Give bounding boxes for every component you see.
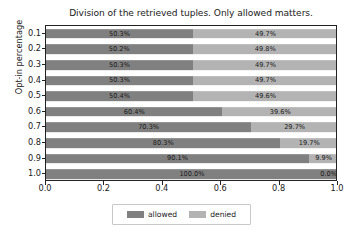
bar-value-label: 100.0% — [179, 170, 204, 178]
bar-row: 50.2%49.8% — [46, 45, 336, 55]
bar-segment-denied: 29.7% — [251, 123, 337, 133]
bar-row: 50.3%49.7% — [46, 60, 336, 70]
bar-segment-allowed: 50.4% — [46, 91, 193, 101]
legend-item-denied[interactable]: denied — [189, 210, 236, 219]
x-tick-mark — [45, 181, 46, 185]
bar-segment-allowed: 90.1% — [46, 154, 309, 164]
bar-value-label: 50.2% — [109, 45, 130, 53]
legend-item-allowed[interactable]: allowed — [127, 210, 177, 219]
bar-value-label: 60.4% — [124, 108, 145, 116]
bar-value-label: 49.7% — [255, 30, 276, 38]
y-tick-label-0.6: 0.6 — [17, 106, 41, 116]
chart-title: Division of the retrieved tuples. Only a… — [45, 8, 337, 18]
x-tick-mark — [279, 181, 280, 185]
bar-segment-denied: 49.7% — [193, 60, 337, 70]
y-tick-label-0.8: 0.8 — [17, 137, 41, 147]
bar-row: 60.4%39.6% — [46, 107, 336, 117]
x-tick-label-1.0: 1.0 — [317, 183, 357, 193]
y-tick-mark — [42, 95, 46, 96]
bar-row: 50.3%49.7% — [46, 76, 336, 86]
bar-segment-allowed: 50.3% — [46, 29, 193, 39]
bar-value-label: 49.8% — [255, 45, 276, 53]
y-tick-label-0.1: 0.1 — [17, 28, 41, 38]
bar-value-label: 90.1% — [167, 155, 188, 163]
y-tick-label-0.4: 0.4 — [17, 75, 41, 85]
y-tick-mark — [42, 173, 46, 174]
y-tick-label-0.3: 0.3 — [17, 59, 41, 69]
bar-value-label: 80.3% — [153, 139, 174, 147]
y-tick-mark — [42, 126, 46, 127]
bar-segment-denied: 49.8% — [193, 45, 337, 55]
y-tick-mark — [42, 64, 46, 65]
x-tick-label-0.8: 0.8 — [259, 183, 299, 193]
bar-value-label: 49.7% — [255, 77, 276, 85]
bar-row: 90.1%9.9% — [46, 154, 336, 164]
legend-swatch-allowed — [127, 211, 144, 218]
bar-segment-allowed: 50.3% — [46, 60, 193, 70]
bar-segment-allowed: 50.3% — [46, 76, 193, 86]
bar-segment-denied: 49.7% — [193, 76, 337, 86]
x-axis-tick-labels: 0.00.20.40.60.81.0 — [45, 183, 337, 197]
y-tick-label-0.7: 0.7 — [17, 121, 41, 131]
x-tick-mark — [220, 181, 221, 185]
bar-value-label: 49.6% — [255, 92, 276, 100]
plot-area: 50.3%49.7%50.2%49.8%50.3%49.7%50.3%49.7%… — [45, 25, 337, 181]
y-axis-tick-labels: 0.10.20.30.40.50.60.70.80.91.0 — [15, 25, 41, 181]
legend-swatch-denied — [189, 211, 206, 218]
x-tick-label-0.2: 0.2 — [83, 183, 123, 193]
bar-value-label: 9.9% — [315, 155, 332, 163]
y-tick-mark — [42, 158, 46, 159]
y-tick-mark — [42, 80, 46, 81]
bar-segment-allowed: 70.3% — [46, 123, 251, 133]
bar-segment-denied: 19.7% — [280, 138, 337, 148]
legend-label: allowed — [148, 210, 177, 219]
y-tick-mark — [42, 33, 46, 34]
y-tick-label-0.9: 0.9 — [17, 153, 41, 163]
bar-row: 70.3%29.7% — [46, 123, 336, 133]
bar-segment-allowed: 80.3% — [46, 138, 280, 148]
bar-value-label: 50.4% — [109, 92, 130, 100]
y-tick-mark — [42, 111, 46, 112]
x-tick-label-0.6: 0.6 — [200, 183, 240, 193]
bar-segment-allowed: 60.4% — [46, 107, 222, 117]
bar-value-label: 50.3% — [109, 30, 130, 38]
x-tick-label-0.0: 0.0 — [25, 183, 65, 193]
x-tick-mark — [162, 181, 163, 185]
bar-value-label: 50.3% — [109, 77, 130, 85]
bar-row: 100.0%0.0% — [46, 169, 336, 179]
chart-legend: alloweddenied — [112, 204, 251, 225]
y-tick-mark — [42, 48, 46, 49]
bar-value-label: 49.7% — [255, 61, 276, 69]
bar-segment-denied: 9.9% — [309, 154, 337, 164]
y-tick-label-1.0: 1.0 — [17, 168, 41, 178]
bar-row: 50.4%49.6% — [46, 91, 336, 101]
bar-value-label: 19.7% — [299, 139, 320, 147]
bar-segment-allowed: 50.2% — [46, 45, 193, 55]
bar-value-label: 39.6% — [270, 108, 291, 116]
y-tick-label-0.2: 0.2 — [17, 43, 41, 53]
bar-segment-allowed: 100.0% — [46, 169, 337, 179]
x-tick-label-0.4: 0.4 — [142, 183, 182, 193]
bar-value-label: 70.3% — [138, 123, 159, 131]
y-tick-mark — [42, 142, 46, 143]
bar-value-label: 50.3% — [109, 61, 130, 69]
chart-figure: Division of the retrieved tuples. Only a… — [0, 0, 358, 235]
x-tick-mark — [337, 181, 338, 185]
y-tick-label-0.5: 0.5 — [17, 90, 41, 100]
bar-segment-denied: 49.6% — [193, 91, 337, 101]
bar-value-label: 29.7% — [284, 123, 305, 131]
bar-row: 50.3%49.7% — [46, 29, 336, 39]
bar-row: 80.3%19.7% — [46, 138, 336, 148]
x-tick-mark — [103, 181, 104, 185]
bar-segment-denied: 49.7% — [193, 29, 337, 39]
bar-segment-denied: 39.6% — [222, 107, 337, 117]
legend-label: denied — [210, 210, 236, 219]
